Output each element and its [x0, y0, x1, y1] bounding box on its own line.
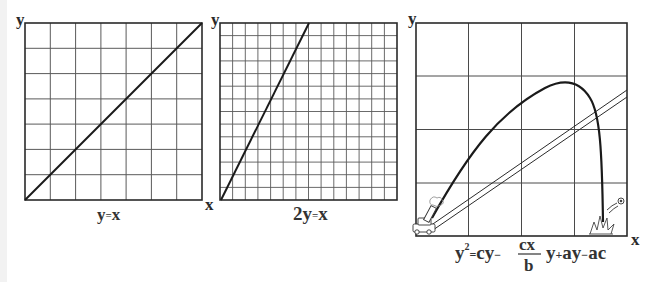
equation-caption: y=x	[97, 205, 121, 224]
graph-panel-trajectory: y x y2=cy− cx b y+ay−ac	[408, 9, 640, 275]
impact-burst-icon	[589, 216, 614, 234]
trajectory-curve	[432, 83, 603, 222]
grid-lines	[220, 23, 397, 200]
grid-lines	[416, 23, 627, 236]
cannonball-icon	[607, 198, 624, 213]
svg-text:y2=cy−: y2=cy−	[455, 241, 501, 263]
cannon-cart-icon	[413, 197, 443, 234]
graph-panel-y-equals-x: y x y=x	[16, 10, 214, 224]
line-y-equals-x	[25, 23, 202, 200]
equation-caption: y2=cy− cx b y+ay−ac	[455, 235, 606, 275]
double-slope-line	[430, 90, 627, 230]
y-axis-label: y	[16, 10, 25, 29]
equation-caption: 2y=x	[293, 203, 328, 224]
y-axis-label: y	[408, 9, 417, 28]
fraction-numerator: cx	[519, 235, 536, 254]
x-axis-label: x	[631, 230, 640, 249]
graph-panel-2y-equals-x: y 2y=x	[211, 10, 397, 224]
svg-text:y+ay−ac: y+ay−ac	[546, 242, 606, 263]
y-axis-label: y	[211, 10, 220, 29]
x-axis-label: x	[205, 195, 214, 214]
fraction-denominator: b	[524, 256, 533, 275]
